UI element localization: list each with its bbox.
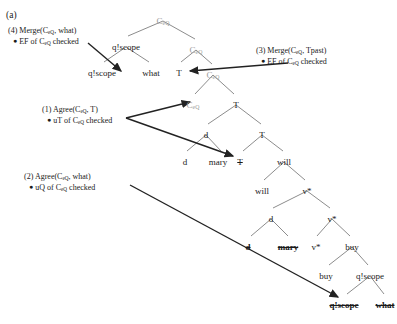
node-label-text: will <box>277 157 291 167</box>
node-label-text: d <box>204 130 209 140</box>
node-label-text: d <box>245 242 250 252</box>
arrow-agree-t-upper <box>126 102 190 118</box>
bullet-icon: ● <box>47 116 51 124</box>
node-label-subscript: eQ <box>196 49 203 55</box>
bullet-icon: ● <box>261 57 265 65</box>
tree-node-what-left: what <box>142 68 160 78</box>
node-label-text: v* <box>312 242 321 252</box>
tree-node-qscope-left: q!scope <box>88 68 116 78</box>
tree-node-buy-2: buy <box>319 271 333 281</box>
tree-node-vstar-1: v* <box>303 186 312 196</box>
tree-node-qscope-top: q!scope <box>112 42 140 52</box>
tree-node-ceq-4: CeQ <box>187 100 200 110</box>
annotation-agree-what: (2) Agree(CeQ, what) ● uQ of CeQ checked <box>24 172 95 194</box>
node-label-text: buy <box>345 242 359 252</box>
tree-node-qscope-struck: q!scope <box>330 300 359 310</box>
node-label-text: q!scope <box>330 300 359 310</box>
tree-node-root-ceq: CeQ <box>157 16 170 26</box>
annotation-line-2: ● EF of CeQ checked <box>8 37 79 48</box>
tree-node-t-struck: T <box>237 157 243 167</box>
annotation-line-2: ● uQ of CeQ checked <box>24 183 95 194</box>
node-label-text: mary <box>278 242 299 252</box>
panel-label: (a) <box>6 10 17 20</box>
figure-canvas: (a) (4) Merge(CeQ, what) ● EF of CeQ che… <box>0 0 397 324</box>
annotation-line-2: ● EF of CeQ checked <box>256 57 327 68</box>
node-label-text: v* <box>303 186 312 196</box>
tree-node-d-struck: d <box>245 242 250 252</box>
annotation-agree-t: (1) Agree(CeQ, T) ● uT of CeQ checked <box>42 105 112 127</box>
node-label-text: what <box>375 300 394 310</box>
tree-node-vstar-3: v* <box>312 242 321 252</box>
tree-node-what-struck: what <box>375 300 394 310</box>
tree-node-vstar-2: v* <box>328 214 337 224</box>
arrow-agree-what <box>130 185 338 297</box>
node-label-subscript: eQ <box>213 74 220 80</box>
tree-node-d-3: d <box>269 214 274 224</box>
node-label-text: q!scope <box>112 42 140 52</box>
node-label-text: T <box>237 157 243 167</box>
node-label-text: q!scope <box>88 68 116 78</box>
annotation-line-1: (3) Merge(CeQ, Tpast) <box>256 46 327 57</box>
tree-node-d-2: d <box>183 157 188 167</box>
tree-node-will-2: will <box>255 186 269 196</box>
node-label-text: T <box>259 130 265 140</box>
tree-node-qscope-low: q!scope <box>356 271 384 281</box>
tree-node-ceq-2: CeQ <box>190 45 203 55</box>
node-label-text: d <box>183 157 188 167</box>
tree-node-buy-1: buy <box>345 242 359 252</box>
branch-lines <box>104 21 384 294</box>
node-label-subscript: eQ <box>163 20 170 26</box>
node-label-subscript: eQ <box>193 104 200 110</box>
tree-node-d-1: d <box>204 130 209 140</box>
annotation-merge-tpast: (3) Merge(CeQ, Tpast) ● EF of CeQ checke… <box>256 46 327 68</box>
node-label-text: q!scope <box>356 271 384 281</box>
node-label-text: what <box>142 68 160 78</box>
tree-node-ceq-3: CeQ <box>207 70 220 80</box>
annotation-line-1: (4) Merge(CeQ, what) <box>8 26 79 37</box>
bullet-icon: ● <box>13 37 17 45</box>
derivation-arrows <box>88 43 338 297</box>
annotation-line-1: (2) Agree(CeQ, what) <box>24 172 95 183</box>
node-label-text: T <box>176 68 182 78</box>
tree-node-t-2: T <box>233 100 239 110</box>
node-label-text: d <box>269 214 274 224</box>
annotation-line-1: (1) Agree(CeQ, T) <box>42 105 112 116</box>
tree-node-mary-struck: mary <box>278 242 299 252</box>
arrow-agree-t-lower <box>126 118 233 156</box>
bullet-icon: ● <box>29 183 33 191</box>
node-label-text: v* <box>328 214 337 224</box>
annotation-merge-what: (4) Merge(CeQ, what) ● EF of CeQ checked <box>8 26 79 48</box>
node-label-text: buy <box>319 271 333 281</box>
node-label-text: will <box>255 186 269 196</box>
annotation-line-2: ● uT of CeQ checked <box>42 116 112 127</box>
node-label-text: mary <box>209 157 228 167</box>
tree-node-will-1: will <box>277 157 291 167</box>
node-label-text: T <box>233 100 239 110</box>
tree-node-t-1: T <box>176 68 182 78</box>
tree-node-mary-1: mary <box>209 157 228 167</box>
tree-node-t-3: T <box>259 130 265 140</box>
